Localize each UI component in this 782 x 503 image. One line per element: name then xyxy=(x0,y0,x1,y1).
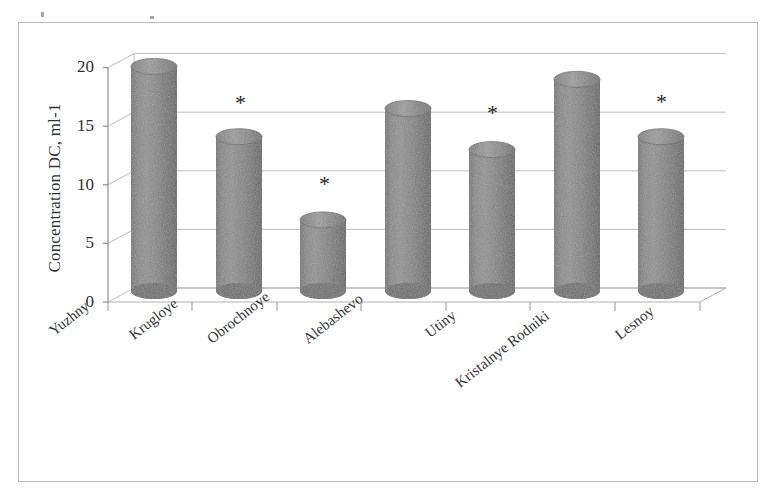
y-tick-label-20: 20 xyxy=(60,57,94,77)
y-axis xyxy=(103,68,108,303)
y-tick-label-10: 10 xyxy=(60,175,94,195)
bar-chart xyxy=(0,0,782,503)
bar-yuzhny[interactable] xyxy=(131,58,177,299)
bar-lesnoy[interactable] xyxy=(638,129,684,299)
bar-obrochnoye[interactable] xyxy=(300,212,346,299)
y-tick-label-5: 5 xyxy=(60,233,94,253)
bar-utiny[interactable] xyxy=(469,142,515,299)
bar-alebashevo[interactable] xyxy=(385,101,431,300)
y-tick-label-15: 15 xyxy=(60,116,94,136)
significance-star-obrochnoye: * xyxy=(319,173,330,195)
significance-star-lesnoy: * xyxy=(656,91,667,113)
bar-kristalnye-rodniki[interactable] xyxy=(554,71,600,299)
bar-krugloye[interactable] xyxy=(216,129,262,299)
figure: Concentration DC, ml-1 20 15 10 5 0 Yuzh… xyxy=(0,0,782,503)
significance-star-utiny: * xyxy=(487,102,498,124)
significance-star-krugloye: * xyxy=(235,92,246,114)
side-wall xyxy=(108,54,134,302)
x-axis-ticks xyxy=(108,302,700,311)
